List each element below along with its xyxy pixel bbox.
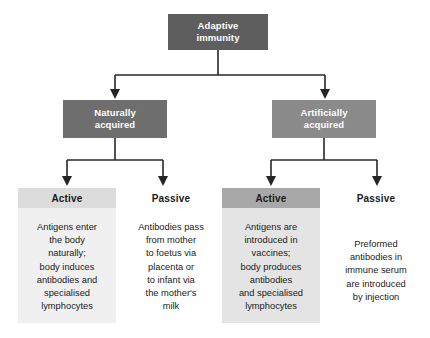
- body-line: body induces: [18, 261, 116, 274]
- node-artificially-acquired-label: Artificially acquired: [300, 107, 347, 131]
- arrowhead-natural-passive: [158, 176, 168, 186]
- body-line: to foetus via: [122, 247, 220, 260]
- column-heading-naturally-active: Active: [18, 188, 116, 208]
- body-line: are introduced: [327, 278, 425, 291]
- node-adaptive-immunity[interactable]: Adaptive immunity: [168, 14, 268, 50]
- arrowhead-natural-active: [62, 176, 72, 186]
- column-heading-naturally-passive: Passive: [122, 188, 220, 208]
- arrowhead-natural: [110, 89, 120, 99]
- node-adaptive-immunity-line2: immunity: [196, 32, 239, 43]
- node-artificially-acquired[interactable]: Artificially acquired: [272, 100, 376, 138]
- body-line: antibodies: [222, 274, 320, 287]
- column-body-artificially-active: Antigens are introduced in vaccines; bod…: [222, 208, 320, 323]
- body-line: specialised: [18, 287, 116, 300]
- column-body-naturally-active: Antigens enter the body naturally; body …: [18, 208, 116, 323]
- node-adaptive-immunity-label: Adaptive immunity: [196, 20, 239, 44]
- arrowhead-artificial-passive: [372, 176, 382, 186]
- column-heading-artificially-passive: Passive: [327, 188, 425, 208]
- body-line: the body: [18, 234, 116, 247]
- body-line: Preformed: [327, 238, 425, 251]
- column-artificially-acquired-active[interactable]: Active Antigens are introduced in vaccin…: [222, 188, 320, 323]
- body-line: lymphocytes: [222, 300, 320, 313]
- body-line: the mother's: [122, 287, 220, 300]
- column-artificially-acquired-passive[interactable]: Passive Preformed antibodies in immune s…: [327, 188, 425, 323]
- column-naturally-acquired-passive[interactable]: Passive Antibodies pass from mother to f…: [122, 188, 220, 323]
- arrowhead-artificial-active: [266, 176, 276, 186]
- body-line: to infant via: [122, 274, 220, 287]
- column-heading-artificially-active: Active: [222, 188, 320, 208]
- node-adaptive-immunity-line1: Adaptive: [198, 20, 239, 31]
- diagram-canvas: Adaptive immunity Naturally acquired Art…: [0, 0, 430, 338]
- body-line: and specialised: [222, 287, 320, 300]
- body-line: immune serum: [327, 264, 425, 277]
- body-line: antibodies in: [327, 251, 425, 264]
- body-line: body produces: [222, 261, 320, 274]
- body-line: milk: [122, 300, 220, 313]
- body-line: lymphocytes: [18, 300, 116, 313]
- body-line: introduced in: [222, 234, 320, 247]
- body-line: placenta or: [122, 261, 220, 274]
- body-line: Antigens are: [222, 221, 320, 234]
- body-line: from mother: [122, 234, 220, 247]
- node-naturally-acquired-line1: Naturally: [94, 107, 136, 118]
- node-artificially-acquired-line2: acquired: [304, 119, 344, 130]
- node-artificially-acquired-line1: Artificially: [300, 107, 347, 118]
- body-line: by injection: [327, 291, 425, 304]
- column-body-artificially-passive: Preformed antibodies in immune serum are…: [327, 208, 425, 323]
- column-body-naturally-passive: Antibodies pass from mother to foetus vi…: [122, 208, 220, 323]
- column-naturally-acquired-active[interactable]: Active Antigens enter the body naturally…: [18, 188, 116, 323]
- body-line: Antigens enter: [18, 221, 116, 234]
- arrowhead-artificial: [320, 89, 330, 99]
- body-line: naturally;: [18, 247, 116, 260]
- node-naturally-acquired-line2: acquired: [95, 119, 135, 130]
- body-line: antibodies and: [18, 274, 116, 287]
- node-naturally-acquired-label: Naturally acquired: [94, 107, 136, 131]
- node-naturally-acquired[interactable]: Naturally acquired: [63, 100, 167, 138]
- body-line: vaccines;: [222, 247, 320, 260]
- body-line: Antibodies pass: [122, 221, 220, 234]
